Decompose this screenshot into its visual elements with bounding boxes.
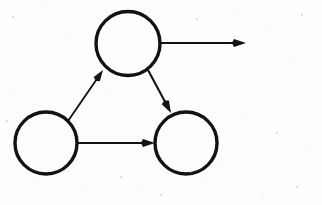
- edge-top-to-bottom-right: [148, 70, 171, 113]
- edge-bottom-left-to-bottom-right: [78, 139, 155, 147]
- diagram-canvas: [0, 0, 322, 205]
- edge-top-to-bottom-right-arrowhead: [162, 100, 171, 113]
- edge-top-outgoing-arrowhead: [232, 39, 246, 47]
- edge-bottom-left-to-top: [68, 70, 103, 121]
- bottom-right-node[interactable]: [155, 112, 217, 174]
- edge-top-outgoing: [160, 39, 246, 47]
- edge-top-to-bottom-right-shaft: [148, 70, 166, 104]
- bottom-left-node[interactable]: [15, 112, 77, 174]
- edge-bottom-left-to-top-arrowhead: [94, 70, 103, 81]
- top-node[interactable]: [96, 12, 160, 76]
- edge-bottom-left-to-bottom-right-arrowhead: [141, 139, 155, 147]
- graph-diagram: [0, 0, 322, 205]
- edge-bottom-left-to-top-shaft: [68, 77, 98, 121]
